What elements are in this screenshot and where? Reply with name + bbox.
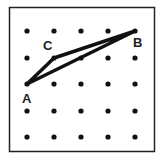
geoboard-diagram: A C B xyxy=(0,0,159,160)
label-b: B xyxy=(133,35,142,50)
grid-dot xyxy=(105,28,110,33)
grid-dot xyxy=(132,81,137,86)
grid-dot xyxy=(105,81,110,86)
label-c: C xyxy=(43,38,53,53)
grid-dot xyxy=(105,134,110,139)
grid-dot xyxy=(24,134,29,139)
grid-dot xyxy=(132,134,137,139)
grid-dot xyxy=(51,81,56,86)
grid-dot xyxy=(24,55,29,60)
grid-dot xyxy=(132,55,137,60)
grid-dot xyxy=(78,108,83,113)
label-a: A xyxy=(22,91,32,106)
grid-dot xyxy=(24,108,29,113)
grid-dot xyxy=(78,28,83,33)
grid-dot xyxy=(24,28,29,33)
grid-dot xyxy=(105,55,110,60)
grid-dot xyxy=(51,134,56,139)
grid-dot xyxy=(78,134,83,139)
grid-dot xyxy=(105,108,110,113)
grid-dot xyxy=(51,108,56,113)
grid-dot xyxy=(132,108,137,113)
grid-dot xyxy=(78,81,83,86)
grid-dot xyxy=(51,28,56,33)
grid-dots xyxy=(24,28,137,139)
